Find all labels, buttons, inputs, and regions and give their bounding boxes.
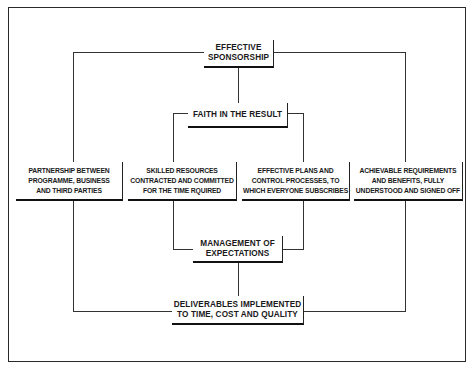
- node-label: MANAGEMENT OF EXPECTATIONS: [200, 239, 275, 259]
- connector-inner-right-top: [303, 113, 304, 163]
- connector-expectations-right: [282, 249, 304, 250]
- connector-right-top: [405, 52, 406, 163]
- connector-deliverables-right: [303, 311, 406, 312]
- node-faith-in-the-result: FAITH IN THE RESULT: [188, 103, 288, 128]
- node-label: DELIVERABLES IMPLEMENTED TO TIME, COST A…: [174, 300, 302, 320]
- connector-faith-left: [173, 113, 188, 114]
- connector-sponsorship-right: [272, 52, 406, 53]
- node-label: SKILLED RESOURCES CONTRACTED AND COMMITT…: [130, 166, 233, 196]
- connector-inner-right-bottom: [303, 200, 304, 250]
- node-management-of-expectations: MANAGEMENT OF EXPECTATIONS: [193, 236, 283, 263]
- node-effective-plans: EFFECTIVE PLANS AND CONTROL PROCESSES, T…: [242, 162, 350, 201]
- connector-inner-left-top: [173, 113, 174, 163]
- node-label: FAITH IN THE RESULT: [193, 110, 282, 120]
- node-effective-sponsorship: EFFECTIVE SPONSORSHIP: [204, 40, 274, 68]
- connector-deliverables-left: [73, 311, 173, 312]
- connector-sponsorship-left: [73, 52, 205, 53]
- connector-faith-right: [287, 113, 304, 114]
- node-label: EFFECTIVE PLANS AND CONTROL PROCESSES, T…: [243, 166, 348, 196]
- node-achievable-requirements: ACHIEVABLE REQUIREMENTS AND BENEFITS, FU…: [354, 162, 463, 201]
- connector-left-bottom: [73, 200, 74, 311]
- node-label: ACHIEVABLE REQUIREMENTS AND BENEFITS, FU…: [356, 166, 460, 196]
- connector-left-top: [73, 52, 74, 163]
- node-partnership: PARTNERSHIP BETWEEN PROGRAMME, BUSINESS …: [16, 162, 123, 201]
- node-skilled-resources: SKILLED RESOURCES CONTRACTED AND COMMITT…: [128, 162, 237, 201]
- node-deliverables-implemented: DELIVERABLES IMPLEMENTED TO TIME, COST A…: [172, 296, 304, 325]
- connector-right-bottom: [405, 200, 406, 311]
- connector-inner-left-bottom: [173, 200, 174, 250]
- node-label: EFFECTIVE SPONSORSHIP: [208, 43, 269, 63]
- connector-expectations-deliverables: [238, 262, 239, 297]
- connector-sponsorship-faith: [238, 67, 239, 104]
- node-label: PARTNERSHIP BETWEEN PROGRAMME, BUSINESS …: [28, 166, 109, 196]
- connector-expectations-left: [173, 249, 193, 250]
